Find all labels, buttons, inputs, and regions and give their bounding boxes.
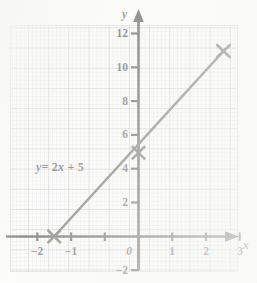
marker-point-3-11	[217, 45, 229, 57]
y-tick-label-minus-2: −2	[102, 265, 128, 277]
x-axis-label: x	[243, 240, 249, 252]
equation-eq: = 2	[42, 160, 58, 174]
x-tick-label-1: 1	[161, 246, 183, 258]
x-tick-label-2: 2	[195, 246, 217, 258]
y-tick-label-8: 8	[106, 96, 128, 108]
y-tick-label-4: 4	[106, 163, 128, 175]
y-axis-arrow	[133, 9, 144, 22]
graph-figure: 12 10 8 6 4 2 −2 −2 −1 0 1 2 3 y x y= 2x…	[0, 0, 257, 283]
x-tick-label-minus-1: −1	[60, 246, 82, 258]
plot-overlay	[0, 0, 257, 283]
x-axis-arrow	[225, 231, 239, 242]
y-tick-label-6: 6	[106, 129, 128, 141]
equation-variable: x	[58, 160, 64, 174]
x-tick-label-minus-2: −2	[26, 246, 48, 258]
y-axis-label: y	[122, 9, 127, 21]
x-tick-label-0: 0	[118, 246, 140, 258]
y-tick-label-10: 10	[106, 62, 128, 74]
y-tick-label-12: 12	[106, 28, 128, 40]
equation-annotation: y= 2x + 5	[36, 160, 84, 175]
y-tick-label-2: 2	[106, 197, 128, 209]
equation-rhs: + 5	[67, 160, 83, 174]
